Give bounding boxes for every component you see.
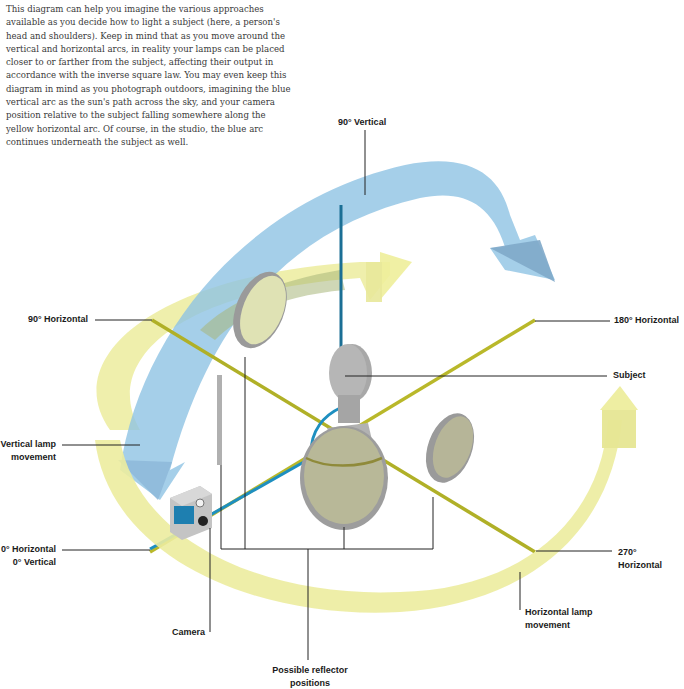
label-camera: Camera [172, 626, 205, 639]
reflector-right [417, 407, 483, 490]
label-270-horizontal: 270° Horizontal [618, 546, 662, 572]
reflector-front [300, 426, 388, 530]
label-180-horizontal: 180° Horizontal [614, 314, 679, 327]
label-reflector-positions: Possible reflector positions [270, 664, 350, 689]
label-90-vertical: 90° Vertical [338, 116, 386, 129]
label-subject: Subject [613, 369, 646, 382]
lighting-diagram [0, 0, 684, 689]
horizontal-arc-arrowhead-back [380, 252, 412, 300]
label-0-horizontal-vertical: 0° Horizontal 0° Vertical [0, 543, 56, 569]
reflector-edge-on [217, 375, 222, 465]
camera-icon [170, 486, 212, 540]
label-vertical-lamp-movement: Vertical lamp movement [0, 438, 56, 464]
label-horizontal-lamp-movement: Horizontal lamp movement [525, 606, 593, 632]
horizontal-arc-arrowhead-front [600, 386, 638, 410]
label-90-horizontal: 90° Horizontal [28, 313, 88, 326]
